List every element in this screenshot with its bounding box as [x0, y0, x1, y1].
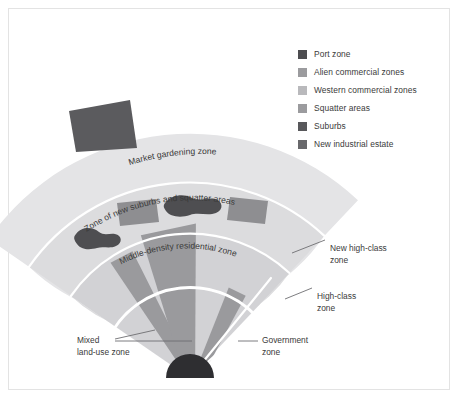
legend-label-new-industrial-estate: New industrial estate: [314, 139, 394, 149]
figure-root: Market gardening zone Zone of new suburb…: [0, 0, 465, 418]
legend-label-alien-commercial-zones: Alien commercial zones: [314, 67, 404, 77]
callout-government-zone-line1: Government: [262, 335, 308, 347]
callout-high-class-zone-line2: zone: [317, 303, 356, 315]
swatch-alien-commercial-zones: [298, 68, 307, 77]
callout-new-high-class-zone: New high-class zone: [330, 243, 387, 266]
callout-mixed-land-use-zone-line2: land-use zone: [77, 347, 130, 359]
legend-label-port-zone: Port zone: [314, 49, 351, 59]
legend-item-port-zone[interactable]: Port zone: [298, 46, 448, 62]
callout-new-high-class-zone-line1: New high-class: [330, 243, 387, 255]
callout-mixed-land-use-zone: Mixed land-use zone: [77, 335, 130, 358]
swatch-new-industrial-estate: [298, 140, 307, 149]
legend-label-western-commercial-zones: Western commercial zones: [314, 85, 417, 95]
callout-government-zone: Government zone: [262, 335, 308, 358]
callout-government-zone-line2: zone: [262, 347, 308, 359]
swatch-suburbs: [298, 122, 307, 131]
shape-new-industrial-estate: [69, 100, 137, 152]
callout-new-high-class-zone-line2: zone: [330, 255, 387, 267]
legend-label-squatter-areas: Squatter areas: [314, 103, 370, 113]
legend-label-suburbs: Suburbs: [314, 121, 346, 131]
legend-item-suburbs[interactable]: Suburbs: [298, 118, 448, 134]
legend: Port zone Alien commercial zones Western…: [298, 46, 448, 154]
swatch-squatter-areas: [298, 104, 307, 113]
legend-item-western-commercial-zones[interactable]: Western commercial zones: [298, 82, 448, 98]
callout-high-class-zone: High-class zone: [317, 291, 356, 314]
legend-item-alien-commercial-zones[interactable]: Alien commercial zones: [298, 64, 448, 80]
callout-high-class-zone-line1: High-class: [317, 291, 356, 303]
legend-item-new-industrial-estate[interactable]: New industrial estate: [298, 136, 448, 152]
legend-item-squatter-areas[interactable]: Squatter areas: [298, 100, 448, 116]
swatch-western-commercial-zones: [298, 86, 307, 95]
swatch-port-zone: [298, 50, 307, 59]
callout-mixed-land-use-zone-line1: Mixed: [77, 335, 130, 347]
